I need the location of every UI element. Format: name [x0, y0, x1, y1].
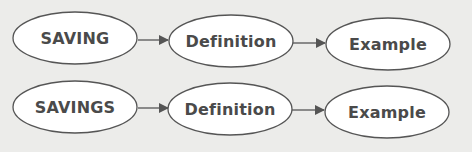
node-label-definition-1: Definition [186, 32, 277, 51]
flow-diagram [0, 0, 472, 152]
node-label-example-2: Example [348, 103, 426, 122]
node-label-savings: SAVINGS [35, 98, 116, 117]
node-label-example-1: Example [349, 35, 427, 54]
diagram-canvas: SAVING Definition Example SAVINGS Defini… [0, 0, 472, 152]
node-label-saving: SAVING [41, 29, 110, 48]
node-label-definition-2: Definition [185, 100, 276, 119]
